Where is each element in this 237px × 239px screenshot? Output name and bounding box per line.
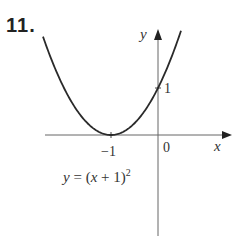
equation-label: y = (x + 1)2	[61, 167, 131, 186]
x-tick-label-0: 0	[163, 140, 170, 155]
parabola-graph: y x 1 −1 0 y = (x + 1)2	[0, 0, 237, 239]
x-axis-label: x	[213, 138, 221, 154]
x-tick-label-minus-1: −1	[101, 144, 116, 159]
y-tick-label-1: 1	[164, 81, 171, 96]
parabola-curve	[43, 31, 181, 135]
y-axis-arrow-icon	[154, 29, 162, 40]
x-axis-arrow-icon	[222, 131, 232, 139]
y-axis-label: y	[138, 26, 147, 42]
